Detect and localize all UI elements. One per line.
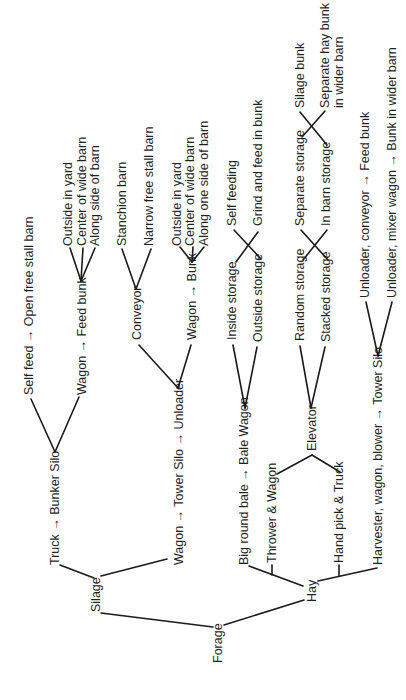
node-self-feeding: Self feeding [225,160,239,226]
node-bk-center-wide: Center of wide barn [183,137,197,246]
tree-labels: Forage Silage Hay Truck → Bunker Silo Se… [22,2,399,663]
edge-bunker-wagonfeed [55,397,79,452]
node-elevator: Elevator [305,405,319,451]
node-silage: Silage [89,577,103,612]
node-thrower-wagon: Thrower & Wagon [265,463,279,563]
node-big-round-bale: Big round bale → Bale Wagon [237,397,251,565]
node-hand-pick-truck: Hand pick & Truck [332,461,346,563]
node-wagon-bunk: Wagon → Bunk [185,252,199,340]
node-unloader-mixer: Unloader, mixer wagon → Bunk in wider ba… [385,47,399,298]
node-fb-center-wide: Center of wide barn [75,137,89,246]
node-forage: Forage [211,623,225,663]
node-fb-along-side: Along side of barn [88,145,102,246]
node-stacked-storage: Stacked storage [319,252,333,342]
edge-feedbunk-yard [70,248,81,281]
edge-conveyor-stanchion [122,249,136,289]
node-hay: Hay [305,579,319,602]
edge-hay-harvester [318,568,377,581]
node-bk-outside-yard: Outside in yard [170,162,184,246]
node-inside-storage: Inside storage [225,261,239,340]
node-truck-bunker-silo: Truck → Bunker Silo [48,451,62,565]
node-narrow-free-stall: Narrow free stall barn [142,126,156,246]
edge-forage-hay [224,600,304,625]
edge-hay-bigbale [249,566,303,586]
edge-forage-silage [101,613,213,627]
node-wagon-tower-unloader: Wagon → Tower Silo → Unloader [172,379,186,565]
edge-thrower-elevator [277,455,312,474]
edge-elevator-stacked [311,347,325,408]
node-self-feed: Self feed → Open free stall barn [22,216,36,395]
edge-conveyor-narrow [136,249,151,289]
node-wagon-feed-bunk: Wagon → Feed bunk [75,277,89,395]
node-grind-feed: Grind and feed in bunk [251,99,265,226]
node-stanchion-barn: Stanchion barn [115,162,129,246]
edge-bunker-selffeed [31,399,55,452]
node-silage-bunk: Silage bunk [293,42,307,108]
edge-silage-wagon [101,559,167,576]
node-in-barn-storage: In barn storage [319,142,333,226]
node-separate-storage: Separate storage [293,130,307,226]
node-outside-storage: Outside storage [251,254,265,342]
node-separate-hay-bunk-line2: in wider barn [332,36,346,108]
node-unloader-conveyor: Unloader, conveyor → Feed bunk [358,111,372,298]
edge-elevator-random [300,346,311,408]
node-bk-along-one-side: Along one side of barn [197,121,211,246]
node-harvester-tower-silo: Harvester, wagon, blower → Tower Silo [371,347,385,565]
node-conveyor: Conveyor [130,287,144,341]
node-fb-outside-yard: Outside in yard [61,162,75,246]
forage-handling-tree-diagram: Forage Silage Hay Truck → Bunker Silo Se… [0,0,406,700]
edge-silage-truck [60,565,94,578]
node-random-storage: Random storage [293,249,307,341]
node-separate-hay-bunk-line1: Separate hay bunk [318,2,332,108]
